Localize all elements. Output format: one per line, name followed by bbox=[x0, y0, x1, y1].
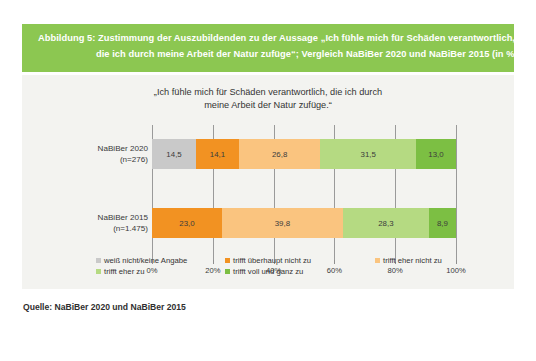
legend-swatch bbox=[375, 258, 380, 263]
legend-swatch bbox=[96, 269, 101, 274]
bar-row: 14,514,126,831,513,0 bbox=[152, 139, 456, 169]
bar-segment: 26,8 bbox=[239, 139, 320, 169]
caption-line-2: die ich durch meine Arbeit der Natur zuf… bbox=[36, 47, 498, 63]
legend-swatch bbox=[225, 258, 230, 263]
category-label-sample-size: (n=276) bbox=[0, 154, 148, 165]
bar-segment: 28,3 bbox=[343, 208, 429, 238]
category-label-line-1: NaBiBer 2015 bbox=[0, 212, 148, 223]
legend-label: weiß nicht/keine Angabe bbox=[104, 256, 187, 265]
legend-item: trifft eher zu bbox=[96, 267, 144, 276]
legend-item: trifft überhaupt nicht zu bbox=[225, 256, 311, 265]
category-label: NaBiBer 2020(n=276) bbox=[0, 143, 148, 165]
legend-label: trifft eher nicht zu bbox=[383, 256, 442, 265]
legend-label: trifft voll und ganz zu bbox=[233, 267, 303, 276]
legend-swatch bbox=[225, 269, 230, 274]
category-label-sample-size: (n=1.475) bbox=[0, 223, 148, 234]
chart-title-line-1: „Ich fühle mich für Schäden verantwortli… bbox=[22, 86, 514, 99]
bar-row: 23,039,828,38,9 bbox=[152, 208, 456, 238]
legend-item: trifft eher nicht zu bbox=[375, 256, 442, 265]
legend-swatch bbox=[96, 258, 101, 263]
source-text: NaBiBer 2020 und NaBiBer 2015 bbox=[55, 302, 186, 312]
bar-segment: 39,8 bbox=[222, 208, 343, 238]
category-label-line-1: NaBiBer 2020 bbox=[0, 143, 148, 154]
bar-segment: 8,9 bbox=[429, 208, 456, 238]
chart-title-line-2: meine Arbeit der Natur zufüge.“ bbox=[22, 99, 514, 112]
figure-caption-banner: Abbildung 5: Zustimmung der Auszubildend… bbox=[22, 24, 514, 72]
bar-segment: 13,0 bbox=[416, 139, 456, 169]
source-note: Quelle: NaBiBer 2020 und NaBiBer 2015 bbox=[23, 302, 186, 312]
chart-title: „Ich fühle mich für Schäden verantwortli… bbox=[22, 86, 514, 112]
plot-area: 0%20%40%60%80%100%14,514,126,831,513,0Na… bbox=[152, 125, 456, 260]
source-prefix: Quelle: bbox=[23, 302, 55, 312]
caption-line-1: Abbildung 5: Zustimmung der Auszubildend… bbox=[36, 31, 498, 47]
bar-segment: 14,1 bbox=[196, 139, 239, 169]
chart-legend: weiß nicht/keine Angabetrifft überhaupt … bbox=[22, 256, 514, 282]
category-label: NaBiBer 2015(n=1.475) bbox=[0, 212, 148, 234]
bar-segment: 14,5 bbox=[152, 139, 196, 169]
bar-segment: 31,5 bbox=[320, 139, 416, 169]
legend-item: trifft voll und ganz zu bbox=[225, 267, 303, 276]
legend-label: trifft eher zu bbox=[104, 267, 144, 276]
gridline bbox=[456, 125, 457, 260]
legend-label: trifft überhaupt nicht zu bbox=[233, 256, 311, 265]
bar-segment: 23,0 bbox=[152, 208, 222, 238]
figure-container: Abbildung 5: Zustimmung der Auszubildend… bbox=[22, 24, 514, 340]
legend-item: weiß nicht/keine Angabe bbox=[96, 256, 187, 265]
